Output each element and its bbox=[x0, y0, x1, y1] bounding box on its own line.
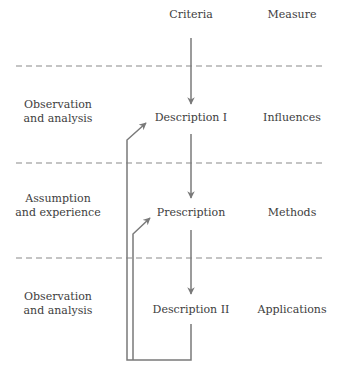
right-label-influences: Influences bbox=[263, 111, 321, 125]
left-label-line2: and experience bbox=[15, 206, 101, 220]
right-label-methods: Methods bbox=[268, 206, 317, 220]
right-label-applications: Applications bbox=[257, 303, 326, 317]
dashed-separators bbox=[16, 66, 323, 258]
left-label-line1: Observation bbox=[24, 290, 93, 304]
left-label-assumption: Assumption and experience bbox=[15, 192, 101, 220]
node-description-2: Description II bbox=[153, 303, 230, 317]
feedback-arrows bbox=[127, 123, 191, 360]
left-label-observation-1: Observation and analysis bbox=[24, 98, 93, 126]
left-label-line1: Assumption bbox=[15, 192, 101, 206]
left-label-line2: and analysis bbox=[24, 304, 93, 318]
left-label-line1: Observation bbox=[24, 98, 93, 112]
criteria-header: Criteria bbox=[169, 8, 212, 22]
left-label-observation-2: Observation and analysis bbox=[24, 290, 93, 318]
left-label-line2: and analysis bbox=[24, 112, 93, 126]
node-prescription: Prescription bbox=[157, 206, 225, 220]
diagram-lines bbox=[0, 0, 339, 377]
node-description-1: Description I bbox=[155, 111, 227, 125]
measure-header: Measure bbox=[268, 8, 317, 22]
